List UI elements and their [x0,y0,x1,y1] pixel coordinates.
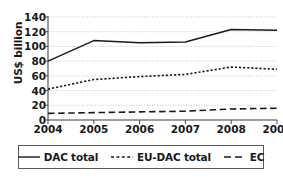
x-tick-label: 2005 [73,124,115,135]
legend-item-dac-total: DAC total [18,151,98,163]
x-tick-label: 2008 [210,124,252,135]
chart-figure: US$ billion 140120100806040200 200420052… [0,0,283,177]
series-line-dac-total [48,30,277,62]
series-line-ec [48,108,277,113]
chart-legend: DAC total EU-DAC total EC [18,145,264,169]
legend-item-eu-dac-total: EU-DAC total [111,151,211,163]
data-series-group [48,30,277,114]
legend-item-ec: EC [224,151,264,163]
series-line-eu-dac-total [48,67,277,89]
grid-lines [48,17,277,120]
x-tick-label: 2006 [119,124,161,135]
legend-label-eu-dac-total: EU-DAC total [137,151,211,163]
legend-swatch-dashed-icon [224,153,246,161]
x-tick-label: 2004 [27,124,69,135]
legend-swatch-solid-icon [18,153,40,161]
legend-swatch-dotted-icon [111,153,133,161]
x-tick-label: 2007 [164,124,206,135]
legend-label-ec: EC [250,151,264,163]
axis-lines [45,16,277,124]
chart-plot-area: US$ billion 140120100806040200 200420052… [0,0,283,140]
x-axis-tick-labels: 200420052006200720082009 [0,124,283,138]
chart-canvas [0,0,283,140]
legend-label-dac-total: DAC total [44,151,98,163]
x-tick-label: 2009 [256,124,283,135]
